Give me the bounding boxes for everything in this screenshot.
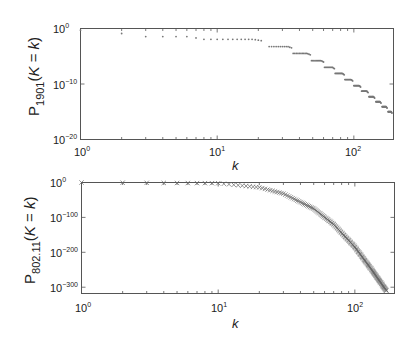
data-point xyxy=(333,68,335,70)
top-xtick-label-1: 101 xyxy=(209,145,225,158)
data-point xyxy=(216,38,218,40)
top-ytick-label-1: 10−10 xyxy=(53,78,77,91)
bottom-y-axis-label: P802.11(K = k) xyxy=(21,197,42,284)
top-xtick-label-2: 102 xyxy=(345,145,361,158)
data-point xyxy=(271,46,273,48)
bottom-xtick-label-0: 100 xyxy=(75,301,91,314)
data-point xyxy=(292,53,294,55)
data-point xyxy=(162,36,164,38)
data-point xyxy=(251,38,253,40)
data-point xyxy=(352,80,354,82)
data-point xyxy=(294,53,296,55)
data-point xyxy=(281,46,283,48)
data-point xyxy=(296,53,298,55)
top-xtick-label-0: 100 xyxy=(74,145,90,158)
figure: 100 101 102 100 10−10 10−20 k P1901(K = … xyxy=(0,0,414,345)
data-point xyxy=(248,38,250,40)
data-point xyxy=(291,47,293,49)
data-point xyxy=(203,38,205,40)
data-point xyxy=(257,39,259,41)
bottom-ytick-label-1: 10−100 xyxy=(50,211,78,224)
data-point xyxy=(374,97,376,99)
top-y-axis-label: P1901(K = k) xyxy=(25,37,46,116)
data-point xyxy=(195,37,197,39)
data-point xyxy=(285,46,287,48)
data-point xyxy=(222,38,224,40)
data-point xyxy=(275,46,277,48)
top-plot-frame xyxy=(81,29,394,140)
bottom-xtick-label-2: 102 xyxy=(347,301,363,314)
bottom-ytick-label-3: 10−300 xyxy=(50,281,78,294)
bottom-plot-frame xyxy=(82,183,395,294)
data-point xyxy=(277,46,279,48)
data-point xyxy=(260,40,262,42)
data-point xyxy=(175,36,177,38)
bottom-ytick-label-2: 10−200 xyxy=(50,246,78,259)
bottom-xtick-label-1: 101 xyxy=(211,301,227,314)
data-point xyxy=(287,46,289,48)
data-point xyxy=(323,61,325,63)
data-point xyxy=(254,39,256,41)
data-point xyxy=(232,38,234,40)
data-point xyxy=(367,92,369,94)
data-point xyxy=(273,46,275,48)
data-point xyxy=(309,54,311,56)
top-ytick-label-2: 10−20 xyxy=(53,133,77,146)
top-ytick-label-0: 100 xyxy=(53,22,69,35)
data-point xyxy=(236,38,238,40)
data-point xyxy=(391,112,393,114)
data-point xyxy=(227,38,229,40)
bottom-ytick-label-0: 100 xyxy=(50,176,66,189)
data-point xyxy=(289,46,291,48)
top-panel: 100 101 102 100 10−10 10−20 k P1901(K = … xyxy=(25,22,394,173)
top-x-axis-label: k xyxy=(232,158,240,173)
bottom-panel: 100 101 102 100 10−100 10−200 10−300 k P… xyxy=(21,176,395,331)
data-point xyxy=(80,29,82,31)
data-point xyxy=(268,46,270,48)
data-point xyxy=(210,38,212,40)
data-point xyxy=(343,74,345,76)
data-point xyxy=(279,46,281,48)
data-point xyxy=(145,36,147,38)
data-point xyxy=(380,102,382,104)
data-point xyxy=(121,33,123,35)
data-point xyxy=(283,46,285,48)
data-point xyxy=(240,38,242,40)
data-point xyxy=(244,38,246,40)
data-point xyxy=(360,86,362,88)
bottom-x-axis-label: k xyxy=(232,316,240,331)
data-point xyxy=(386,107,388,109)
data-point xyxy=(186,36,188,38)
